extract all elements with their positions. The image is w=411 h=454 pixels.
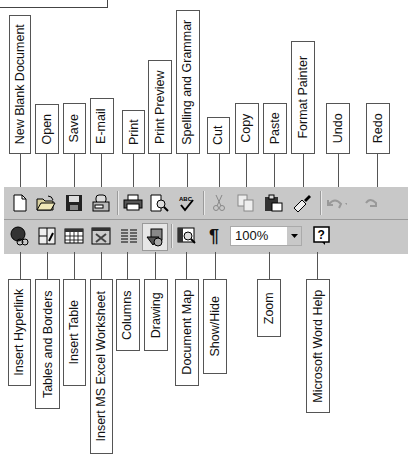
cut-button[interactable] bbox=[208, 192, 230, 214]
copy-icon bbox=[237, 194, 255, 212]
spell-check-icon: ABC bbox=[177, 194, 197, 212]
callout-format-painter: Format Painter bbox=[291, 41, 315, 154]
callout-insert-table: Insert Table bbox=[63, 279, 86, 386]
microsoft-word-help-button[interactable]: ? bbox=[311, 225, 333, 247]
callout-save: Save bbox=[63, 103, 86, 154]
insert-excel-worksheet-button[interactable] bbox=[90, 225, 112, 247]
callout-paste: Paste bbox=[263, 103, 287, 154]
drawing-button[interactable] bbox=[142, 223, 168, 251]
redo-icon bbox=[363, 194, 385, 212]
callout-spelling-grammar: Spelling and Grammar bbox=[176, 10, 200, 154]
callout-copy: Copy bbox=[235, 103, 259, 154]
table-grid-icon bbox=[64, 228, 84, 244]
columns-icon bbox=[120, 228, 138, 244]
callout-print: Print bbox=[122, 110, 145, 154]
spelling-grammar-button[interactable]: ABC bbox=[176, 192, 198, 214]
show-hide-button[interactable]: ¶ bbox=[203, 225, 225, 247]
save-button[interactable] bbox=[63, 192, 85, 214]
standard-toolbar-row1: ABC bbox=[4, 187, 408, 221]
callout-undo: Undo bbox=[326, 103, 350, 154]
open-folder-icon bbox=[36, 194, 56, 212]
zoom-value: 100% bbox=[235, 228, 268, 243]
copy-button[interactable] bbox=[235, 192, 257, 214]
chevron-down-icon[interactable] bbox=[287, 227, 301, 245]
open-button[interactable] bbox=[35, 192, 57, 214]
printer-icon bbox=[123, 194, 143, 212]
paintbrush-icon bbox=[292, 194, 312, 212]
callout-email: E-mail bbox=[90, 98, 114, 154]
callout-cut: Cut bbox=[207, 117, 230, 154]
print-preview-icon bbox=[149, 194, 169, 212]
format-painter-button[interactable] bbox=[291, 192, 313, 214]
table-pencil-icon bbox=[38, 227, 56, 245]
scissors-icon bbox=[211, 194, 227, 212]
clipboard-icon bbox=[264, 194, 284, 212]
new-document-icon bbox=[12, 194, 28, 212]
zoom-dropdown[interactable]: 100% bbox=[230, 226, 302, 246]
svg-text:ABC: ABC bbox=[179, 196, 193, 202]
callout-print-preview: Print Preview bbox=[148, 60, 172, 154]
floppy-disk-icon bbox=[65, 194, 83, 212]
callout-tables-borders: Tables and Borders bbox=[35, 279, 60, 409]
globe-link-icon bbox=[10, 226, 30, 246]
callout-drawing: Drawing bbox=[144, 279, 168, 351]
tables-borders-button[interactable] bbox=[36, 225, 58, 247]
insert-hyperlink-button[interactable] bbox=[9, 225, 31, 247]
callout-columns: Columns bbox=[116, 279, 140, 351]
cropped-label-box bbox=[0, 0, 108, 8]
columns-button[interactable] bbox=[118, 225, 140, 247]
callout-insert-excel-worksheet: Insert MS Excel Worksheet bbox=[90, 279, 113, 454]
redo-button[interactable] bbox=[363, 192, 385, 214]
paste-button[interactable] bbox=[263, 192, 285, 214]
callout-zoom: Zoom bbox=[257, 279, 281, 337]
callout-document-map: Document Map bbox=[175, 279, 199, 386]
drawing-shapes-icon bbox=[145, 227, 165, 247]
callout-insert-hyperlink: Insert Hyperlink bbox=[8, 279, 31, 386]
document-map-button[interactable] bbox=[176, 225, 198, 247]
email-button[interactable] bbox=[90, 192, 112, 214]
callout-open: Open bbox=[35, 104, 59, 154]
excel-sheet-icon bbox=[91, 227, 111, 245]
callout-show-hide: Show/Hide bbox=[203, 279, 227, 374]
help-question-icon: ? bbox=[313, 226, 331, 246]
new-blank-document-button[interactable] bbox=[9, 192, 31, 214]
print-preview-button[interactable] bbox=[148, 192, 170, 214]
pilcrow-icon: ¶ bbox=[209, 226, 219, 247]
email-icon bbox=[91, 194, 111, 212]
document-map-icon bbox=[177, 227, 197, 245]
insert-table-button[interactable] bbox=[63, 225, 85, 247]
undo-button[interactable] bbox=[325, 192, 347, 214]
undo-icon bbox=[325, 194, 347, 212]
standard-toolbar-row2: ¶ 100% ? bbox=[4, 220, 408, 254]
callout-new-blank-document: New Blank Document bbox=[9, 15, 31, 154]
print-button[interactable] bbox=[122, 192, 144, 214]
svg-text:?: ? bbox=[318, 228, 325, 242]
callout-redo: Redo bbox=[366, 103, 390, 154]
callout-microsoft-word-help: Microsoft Word Help bbox=[306, 279, 330, 413]
